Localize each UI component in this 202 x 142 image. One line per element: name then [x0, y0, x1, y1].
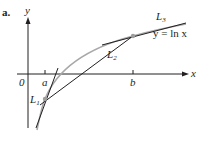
- label-L1: L1: [29, 93, 40, 107]
- point-b: [131, 34, 135, 38]
- label-L3: L3: [155, 10, 166, 24]
- curve-label: y = ln x: [153, 27, 188, 39]
- diagram-canvas: a. y x 0 a b L1 L2 L3 y = ln x: [0, 0, 202, 142]
- tick-a-label: a: [42, 76, 48, 88]
- ln-curve: [37, 24, 186, 130]
- label-L2: L2: [106, 48, 117, 62]
- line-L2: [40, 36, 133, 105]
- x-axis-label: x: [190, 67, 196, 79]
- y-axis-arrow-icon: [26, 17, 31, 24]
- y-axis: [26, 17, 31, 128]
- origin-label: 0: [19, 76, 25, 88]
- x-axis-arrow-icon: [182, 72, 189, 77]
- y-axis-label: y: [24, 4, 30, 16]
- panel-label: a.: [2, 6, 11, 18]
- tick-b-label: b: [130, 76, 136, 88]
- point-a: [43, 97, 47, 101]
